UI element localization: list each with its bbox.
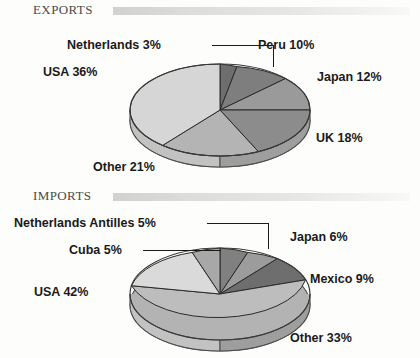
imports-leader-antilles-vertical (268, 223, 269, 249)
imports-header-band (113, 193, 410, 201)
exports-section-header: EXPORTS (0, 2, 420, 22)
imports-leader-cuba-horizontal (143, 250, 221, 251)
imports-section-header: IMPORTS (0, 188, 420, 208)
imports-label-netherlands-antilles: Netherlands Antilles 5% (14, 216, 156, 230)
exports-pie-svg (128, 48, 313, 173)
imports-label-other: Other 33% (290, 331, 352, 345)
imports-leader-antilles-horizontal (207, 223, 269, 224)
figure-page: EXPORTS (0, 0, 420, 358)
exports-label-netherlands: Netherlands 3% (67, 38, 161, 52)
imports-label-mexico: Mexico 9% (310, 272, 374, 286)
exports-pie-chart (128, 48, 313, 173)
imports-label-japan: Japan 6% (290, 230, 348, 244)
exports-label-japan: Japan 12% (317, 70, 382, 84)
exports-header-band (113, 7, 410, 15)
exports-label-uk: UK 18% (316, 131, 363, 145)
imports-label-cuba: Cuba 5% (69, 243, 122, 257)
exports-label-usa: USA 36% (43, 65, 97, 79)
exports-section-title: EXPORTS (33, 2, 93, 18)
exports-label-peru: Peru 10% (258, 38, 314, 52)
imports-section-title: IMPORTS (33, 188, 91, 204)
imports-label-usa: USA 42% (34, 285, 88, 299)
exports-label-other: Other 21% (93, 160, 155, 174)
